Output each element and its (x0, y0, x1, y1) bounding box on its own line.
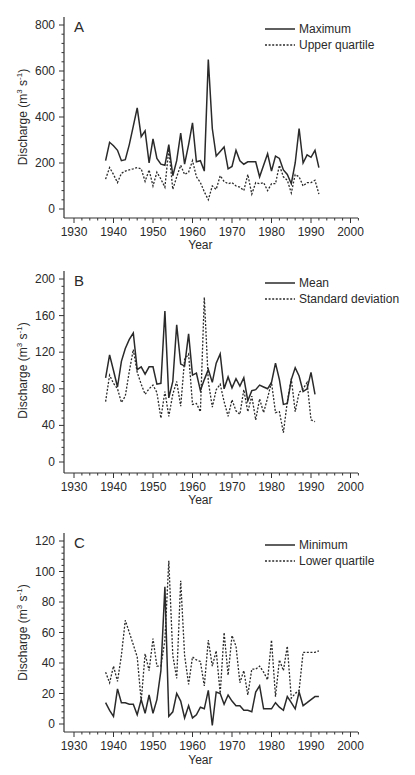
x-tick-label: 1970 (219, 225, 246, 239)
y-tick-label: 40 (42, 656, 56, 670)
y-axis-label: Discharge (m3 s-1) (15, 584, 30, 680)
x-tick-label: 1940 (100, 480, 127, 494)
x-tick-label: 1960 (179, 480, 206, 494)
x-axis-label: Year (188, 238, 212, 252)
x-tick-label: 1950 (140, 739, 167, 753)
legend-entry: Upper quartile (299, 38, 375, 52)
y-tick-label: 0 (48, 717, 55, 731)
x-axis-label: Year (188, 753, 212, 767)
x-axis-label: Year (188, 493, 212, 507)
chart-panel-b: 0408012016020019301940195019601970198019… (0, 258, 415, 512)
panel-label: B (74, 272, 84, 289)
x-tick-label: 1970 (219, 739, 246, 753)
y-tick-label: 80 (42, 382, 56, 396)
x-tick-label: 1970 (219, 480, 246, 494)
legend-entry: Standard deviation (299, 292, 399, 306)
x-tick-label: 1990 (298, 480, 325, 494)
y-axis-label: Discharge (m3 s-1) (15, 69, 30, 165)
panel-label: C (74, 534, 85, 551)
maximum-line (106, 60, 319, 184)
x-tick-label: 1960 (179, 739, 206, 753)
legend-entry: Maximum (299, 22, 351, 36)
x-tick-label: 1930 (61, 480, 88, 494)
x-tick-label: 1960 (179, 225, 206, 239)
y-tick-label: 60 (42, 626, 56, 640)
y-tick-label: 800 (35, 18, 55, 32)
y-tick-label: 160 (35, 309, 55, 323)
y-tick-label: 20 (42, 687, 56, 701)
y-tick-label: 120 (35, 345, 55, 359)
x-tick-label: 2000 (337, 739, 364, 753)
legend-entry: Lower quartile (299, 554, 375, 568)
y-tick-label: 200 (35, 156, 55, 170)
x-tick-label: 1940 (100, 225, 127, 239)
lower-quartile-line (106, 561, 319, 701)
x-tick-label: 1950 (140, 225, 167, 239)
chart-panel-a: 0200400600800193019401950196019701980199… (0, 0, 415, 258)
x-tick-label: 1990 (298, 225, 325, 239)
y-tick-label: 0 (48, 202, 55, 216)
x-tick-label: 1980 (258, 225, 285, 239)
legend-entry: Minimum (299, 538, 348, 552)
x-tick-label: 1980 (258, 480, 285, 494)
x-tick-label: 1930 (61, 225, 88, 239)
y-tick-label: 600 (35, 64, 55, 78)
panel-label: A (74, 18, 84, 35)
minimum-line (106, 587, 319, 726)
y-axis-label: Discharge (m3 s-1) (15, 322, 30, 418)
x-tick-label: 1980 (258, 739, 285, 753)
x-tick-label: 2000 (337, 225, 364, 239)
legend-entry: Mean (299, 276, 329, 290)
y-tick-label: 0 (48, 455, 55, 469)
x-tick-label: 1930 (61, 739, 88, 753)
y-tick-label: 200 (35, 272, 55, 286)
y-tick-label: 400 (35, 110, 55, 124)
y-tick-label: 120 (35, 534, 55, 548)
y-tick-label: 40 (42, 418, 56, 432)
y-tick-label: 80 (42, 595, 56, 609)
chart-panel-c: 0204060801001201930194019501960197019801… (0, 512, 415, 775)
x-tick-label: 1950 (140, 480, 167, 494)
x-tick-label: 1990 (298, 739, 325, 753)
x-tick-label: 1940 (100, 739, 127, 753)
y-tick-label: 100 (35, 565, 55, 579)
x-tick-label: 2000 (337, 480, 364, 494)
